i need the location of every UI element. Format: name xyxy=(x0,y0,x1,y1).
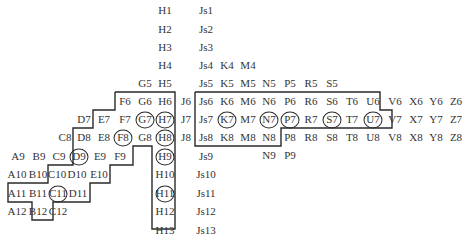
cell-label: N8 xyxy=(262,131,275,143)
cell-label: G8 xyxy=(138,131,151,143)
cell-label: Js2 xyxy=(199,23,213,35)
cell-label: N7 xyxy=(262,113,275,125)
cell-label: M7 xyxy=(240,113,255,125)
cell-label: B10 xyxy=(29,168,47,180)
cell-label: T7 xyxy=(346,113,358,125)
cell-label: R5 xyxy=(305,77,318,89)
cell-label: J8 xyxy=(181,131,191,143)
cell-label: E9 xyxy=(94,150,106,162)
cell-label: P5 xyxy=(284,77,296,89)
cell-label: M6 xyxy=(240,95,255,107)
cell-label: K8 xyxy=(220,131,233,143)
cell-label: X8 xyxy=(409,131,422,143)
cell-label: H13 xyxy=(156,224,175,236)
cell-label: A10 xyxy=(8,168,27,180)
cell-label: E10 xyxy=(90,168,108,180)
cell-label: K7 xyxy=(220,113,233,125)
cell-label: A11 xyxy=(8,187,27,199)
cell-label: C10 xyxy=(48,168,66,180)
cell-label: D10 xyxy=(68,168,87,180)
cell-label: F6 xyxy=(119,95,131,107)
cell-label: C8 xyxy=(59,131,72,143)
cell-label: V8 xyxy=(388,131,401,143)
cell-label: Js1 xyxy=(199,4,213,16)
cell-label: P9 xyxy=(284,149,296,161)
cell-label: T8 xyxy=(346,131,358,143)
cell-label: E8 xyxy=(98,131,110,143)
cell-label: H3 xyxy=(158,41,171,53)
cell-label: Y8 xyxy=(429,131,442,143)
cell-label: G5 xyxy=(138,77,151,89)
cell-label: B11 xyxy=(29,187,47,199)
cell-label: Y7 xyxy=(429,113,442,125)
cell-label: N5 xyxy=(262,77,275,89)
cell-label: V6 xyxy=(388,95,401,107)
cell-label: J7 xyxy=(181,113,191,125)
cell-label: H2 xyxy=(158,23,171,35)
cell-label: R8 xyxy=(305,131,318,143)
cell-label: X6 xyxy=(409,95,422,107)
cell-label: U6 xyxy=(366,95,379,107)
cell-label: F8 xyxy=(117,131,129,143)
cell-label: H5 xyxy=(158,77,171,89)
cell-label: Js9 xyxy=(199,150,213,162)
cell-label: R6 xyxy=(305,95,318,107)
cell-label: P7 xyxy=(284,113,296,125)
cell-label: P8 xyxy=(284,131,296,143)
cell-label: H4 xyxy=(158,59,171,71)
cell-label: Js7 xyxy=(199,113,213,125)
grid-diagram: H1Js1H2Js2H3Js3H4Js4K4M4G5H5Js5K5M5N5P5R… xyxy=(0,0,464,242)
cell-label: F9 xyxy=(114,150,126,162)
cell-label: H11 xyxy=(156,187,175,199)
cell-label: Js12 xyxy=(196,205,216,217)
cell-label: H7 xyxy=(158,113,171,125)
cell-label: Js13 xyxy=(196,224,216,236)
cell-label: S5 xyxy=(326,77,338,89)
cell-label: H6 xyxy=(158,95,171,107)
cell-label: Js4 xyxy=(199,59,213,71)
cell-label: S7 xyxy=(326,113,338,125)
cell-label: N6 xyxy=(262,95,275,107)
cell-label: D7 xyxy=(77,113,90,125)
cell-label: E7 xyxy=(98,113,110,125)
cell-label: K5 xyxy=(220,77,233,89)
cell-label: R7 xyxy=(305,113,318,125)
cell-label: S8 xyxy=(326,131,338,143)
cell-label: H8 xyxy=(158,131,171,143)
cell-label: U8 xyxy=(366,131,379,143)
cell-label: G6 xyxy=(138,95,151,107)
cell-label: C11 xyxy=(49,187,67,199)
cell-label: A12 xyxy=(8,205,27,217)
cell-label: Js3 xyxy=(199,41,213,53)
cell-label: M8 xyxy=(240,131,255,143)
cell-label: N9 xyxy=(262,149,275,161)
cell-label: J6 xyxy=(181,95,191,107)
cell-label: V7 xyxy=(388,113,401,125)
cell-label: C9 xyxy=(53,150,66,162)
cell-label: Z8 xyxy=(450,131,462,143)
cell-label: T6 xyxy=(346,95,358,107)
cell-label: K4 xyxy=(220,59,233,71)
cell-label: Js6 xyxy=(199,95,213,107)
cell-label: H12 xyxy=(156,205,175,217)
cell-label: H10 xyxy=(156,168,175,180)
cell-label: D11 xyxy=(69,187,88,199)
cell-label: M4 xyxy=(240,59,255,71)
cell-label: P6 xyxy=(284,95,296,107)
cell-label: A9 xyxy=(11,150,24,162)
cell-label: U7 xyxy=(366,113,379,125)
cell-label: M5 xyxy=(240,77,255,89)
cell-label: Js11 xyxy=(196,187,215,199)
cell-label: C12 xyxy=(49,205,67,217)
cell-label: S6 xyxy=(326,95,338,107)
cell-label: D9 xyxy=(72,150,85,162)
cell-label: Z7 xyxy=(450,113,462,125)
cell-label: B12 xyxy=(29,205,47,217)
cell-label: G7 xyxy=(138,113,151,125)
cell-label: H9 xyxy=(158,150,171,162)
cell-label: Y6 xyxy=(429,95,442,107)
cell-label: Js10 xyxy=(196,168,216,180)
cell-label: K6 xyxy=(220,95,233,107)
cell-label: Js8 xyxy=(199,131,213,143)
cell-label: F7 xyxy=(119,113,131,125)
